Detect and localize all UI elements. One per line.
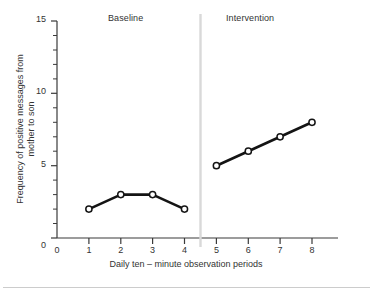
x-axis-title: Daily ten – minute observation periods [57, 259, 315, 269]
phase-label-baseline: Baseline [108, 13, 143, 23]
y-tick-label-0: 0 [30, 240, 46, 250]
x-tick-label-8: 8 [305, 245, 319, 255]
x-tick-label-4: 4 [178, 245, 192, 255]
x-tick-label-3: 3 [146, 245, 160, 255]
y-axis-title-line-1: Frequency of positive messages from [15, 29, 26, 229]
x-tick-label-7: 7 [273, 245, 287, 255]
chart-figure: Baseline Intervention 15 10 5 0 0 1 2 3 … [0, 0, 373, 300]
x-tick-label-2: 2 [114, 245, 128, 255]
y-tick-label-15: 15 [30, 14, 46, 24]
x-tick-label-5: 5 [209, 245, 223, 255]
line-chart-canvas [0, 0, 373, 300]
y-axis-title-line-2: mother to son [26, 29, 37, 229]
x-tick-label-6: 6 [241, 245, 255, 255]
intervention-series-line [216, 122, 312, 165]
y-axis-title: Frequency of positive messages from moth… [15, 29, 37, 229]
phase-label-intervention: Intervention [226, 13, 274, 23]
x-tick-label-1: 1 [82, 245, 96, 255]
bottom-divider-rule [3, 287, 370, 288]
x-tick-label-0: 0 [50, 245, 64, 255]
baseline-series-line [89, 195, 185, 210]
y-axis-major-ticks [51, 21, 57, 238]
